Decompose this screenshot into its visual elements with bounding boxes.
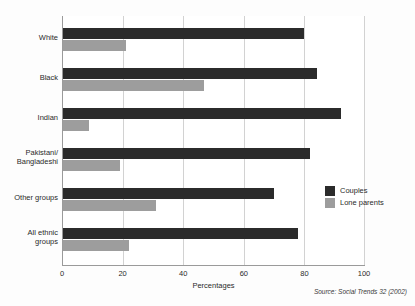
bar-pakistani-bangladeshi-lone-parents: [62, 160, 120, 171]
x-tick-label-0: 0: [60, 269, 64, 278]
bar-other-groups-couples: [62, 188, 274, 199]
legend-item-couples: Couples: [325, 185, 384, 196]
bar-all-ethnic-groups-lone-parents: [62, 240, 129, 251]
category-label-indian: Indian: [0, 113, 58, 122]
legend-label-lone-parents: Lone parents: [340, 198, 384, 207]
bar-pakistani-bangladeshi-couples: [62, 148, 310, 159]
category-label-all-ethnic-groups: All ethnic groups: [0, 228, 58, 246]
bar-black-couples: [62, 68, 317, 79]
category-label-pakistani-bangladeshi: Pakistani/ Bangladeshi: [0, 148, 58, 166]
legend-item-lone-parents: Lone parents: [325, 197, 384, 208]
gridline-100: [364, 16, 365, 265]
category-label-white: White: [0, 33, 58, 42]
bar-white-couples: [62, 28, 304, 39]
source-note: Source: Social Trends 32 (2002): [314, 288, 407, 295]
bar-white-lone-parents: [62, 40, 126, 51]
x-tick-label-80: 80: [300, 269, 308, 278]
bar-black-lone-parents: [62, 80, 204, 91]
legend-swatch-lone-parents: [325, 198, 335, 208]
x-tick-label-100: 100: [358, 269, 371, 278]
chart-figure: White Black Indian Pakistani/ Bangladesh…: [0, 0, 415, 306]
bar-indian-couples: [62, 108, 341, 119]
legend-swatch-couples: [325, 186, 335, 196]
category-label-other-groups: Other groups: [0, 193, 58, 202]
x-tick-label-40: 40: [179, 269, 187, 278]
x-axis-line: [62, 265, 365, 266]
y-axis-line: [62, 16, 63, 265]
bar-all-ethnic-groups-couples: [62, 228, 298, 239]
plot-area: [62, 16, 365, 265]
bar-other-groups-lone-parents: [62, 200, 156, 211]
bar-indian-lone-parents: [62, 120, 89, 131]
category-label-black: Black: [0, 73, 58, 82]
legend-label-couples: Couples: [340, 186, 368, 195]
x-tick-label-20: 20: [118, 269, 126, 278]
x-tick-label-60: 60: [240, 269, 248, 278]
gridline-80: [304, 16, 305, 265]
chart-legend: Couples Lone parents: [325, 185, 384, 209]
